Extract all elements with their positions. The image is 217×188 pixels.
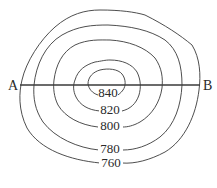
point-label-a: A	[8, 78, 19, 93]
contour-label-760: 760	[101, 155, 121, 170]
contour-label-800: 800	[100, 118, 120, 133]
contour-label-780: 780	[100, 141, 120, 156]
contour-label-840: 840	[98, 85, 118, 100]
point-label-b: B	[203, 78, 212, 93]
contour-map: 840 820 800 780 760 A B	[0, 0, 217, 188]
contour-label-820: 820	[100, 102, 120, 117]
